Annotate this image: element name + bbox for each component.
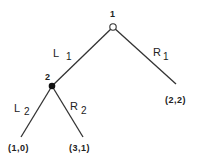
- action-L1-label: L: [53, 47, 59, 59]
- action-L2-label: L: [14, 102, 20, 114]
- payoff-leaf-10: (1,0): [8, 143, 29, 153]
- action-L2-subscript: 2: [24, 106, 30, 117]
- payoff-leaf-22: (2,2): [165, 95, 186, 105]
- action-R2-label: R: [70, 100, 78, 112]
- node-1-open-circle: [110, 24, 116, 30]
- action-R1-subscript: 1: [163, 51, 169, 62]
- action-L1-subscript: 1: [66, 51, 72, 62]
- edge-R2: [52, 86, 83, 137]
- edge-L1: [52, 27, 113, 86]
- payoff-leaf-31: (3,1): [69, 143, 90, 153]
- node-2-label: 2: [45, 72, 50, 82]
- action-R1-label: R: [153, 46, 161, 58]
- game-tree-diagram: 1 2 L 1 R 1 L 2 R 2 (1,0) (3,1) (2,2): [0, 0, 200, 161]
- node-2-filled-circle: [49, 83, 56, 90]
- action-R2-subscript: 2: [81, 105, 87, 116]
- game-tree-svg: 1 2 L 1 R 1 L 2 R 2 (1,0) (3,1) (2,2): [0, 0, 200, 161]
- node-1-label: 1: [110, 9, 115, 19]
